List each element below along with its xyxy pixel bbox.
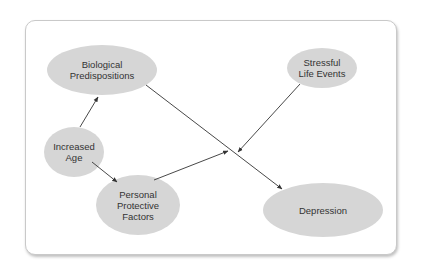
edge-stress-to-path [238, 84, 300, 152]
edge-age-to-bio [80, 97, 98, 127]
edge-bio-to-depression [146, 85, 282, 189]
label-stressful-life-events: Stressful Life Events [287, 53, 357, 83]
edge-ppf-to-path [154, 151, 228, 180]
label-biological-predispositions: Biological Predispositions [47, 55, 157, 85]
label-personal-protective-factors: Personal Protective Factors [96, 187, 180, 223]
label-increased-age: Increased Age [44, 137, 104, 167]
label-depression: Depression [263, 200, 383, 220]
